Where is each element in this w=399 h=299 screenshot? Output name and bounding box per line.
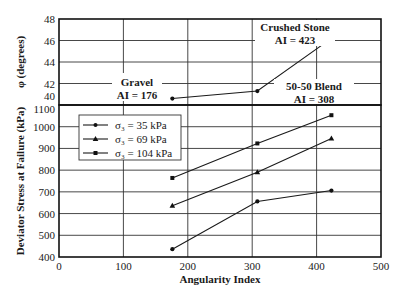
top-y-axis-title: φ (degrees) xyxy=(14,36,27,89)
bottom-y-tick-label: 1100 xyxy=(33,103,55,115)
top-y-tick-label: 42 xyxy=(44,78,55,90)
top-y-tick-label: 48 xyxy=(44,13,56,25)
x-tick-label: 0 xyxy=(56,260,62,272)
bottom-y-tick-label: 600 xyxy=(39,208,56,220)
circle-marker-icon xyxy=(255,199,259,203)
top-y-tick-label: 46 xyxy=(44,35,56,47)
bottom-y-tick-label: 900 xyxy=(39,142,56,154)
legend-label-35: σ₃ = 35 kPa xyxy=(115,119,167,131)
circle-marker-icon xyxy=(255,89,259,93)
bottom-y-tick-label: 1000 xyxy=(33,121,56,133)
annotation-crushed-ai: AI = 423 xyxy=(275,34,316,46)
circle-marker-icon xyxy=(329,188,333,192)
square-marker-icon xyxy=(329,113,333,117)
x-tick-label: 100 xyxy=(115,260,132,272)
annotation-gravel-name: Gravel xyxy=(121,76,153,88)
legend: σ₃ = 35 kPa σ₃ = 69 kPa σ₃ = 104 kPa xyxy=(79,115,181,160)
legend-label-69: σ₃ = 69 kPa xyxy=(115,133,167,145)
bottom-y-tick-label: 700 xyxy=(39,186,56,198)
annotation-crushed: Crushed Stone AI = 423 xyxy=(255,20,335,46)
x-tick-label: 400 xyxy=(308,260,325,272)
annotation-crushed-name: Crushed Stone xyxy=(260,21,329,33)
bottom-y-axis-title: Deviator Stress at Failure (kPa) xyxy=(14,106,27,255)
legend-label-104: σ₃ = 104 kPa xyxy=(115,147,172,159)
top-y-tick-label: 44 xyxy=(44,56,56,68)
annotation-blend: 50-50 Blend AI = 308 xyxy=(274,79,354,105)
bottom-y-tick-label: 400 xyxy=(39,251,56,263)
bottom-y-tick-label: 800 xyxy=(39,164,56,176)
square-marker-icon xyxy=(170,176,174,180)
triangle-marker-icon xyxy=(329,135,335,140)
circle-marker-icon xyxy=(94,123,98,127)
x-tick-label: 500 xyxy=(373,260,390,272)
bottom-y-tick-label: 500 xyxy=(39,229,56,241)
x-axis-title: Angularity Index xyxy=(180,273,261,285)
annotation-blend-ai: AI = 308 xyxy=(294,93,335,105)
square-marker-icon xyxy=(94,151,98,155)
x-tick-label: 300 xyxy=(244,260,261,272)
square-marker-icon xyxy=(255,141,259,145)
circle-marker-icon xyxy=(170,96,174,100)
annotation-blend-name: 50-50 Blend xyxy=(286,80,342,92)
annotation-gravel: Gravel AI = 176 xyxy=(112,73,162,101)
circle-marker-icon xyxy=(170,247,174,251)
annotation-gravel-ai: AI = 176 xyxy=(117,89,158,101)
chart: 0100200300400500404244464840050060070080… xyxy=(0,0,399,299)
x-tick-label: 200 xyxy=(180,260,197,272)
top-y-tick-label: 40 xyxy=(44,90,56,102)
